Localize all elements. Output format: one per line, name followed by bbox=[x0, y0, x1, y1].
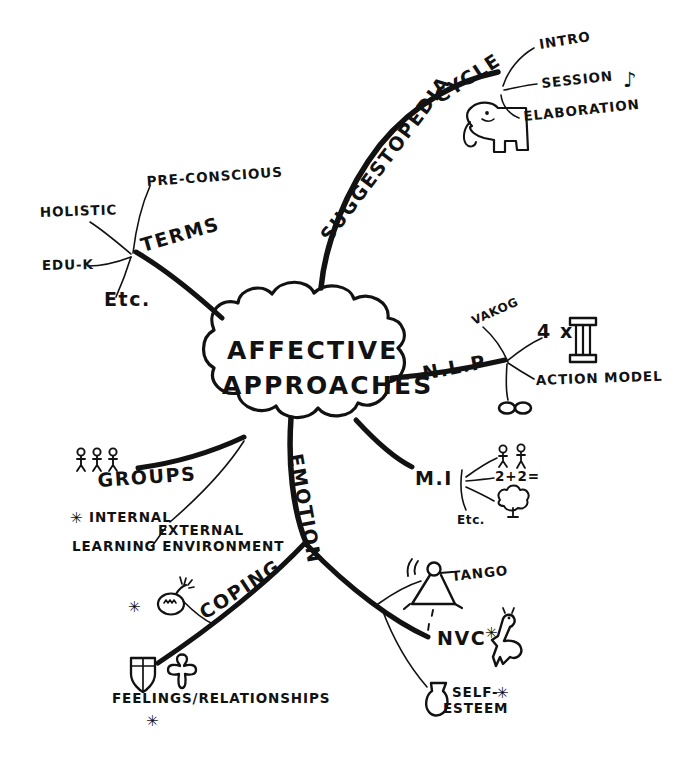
subbranch-holistic bbox=[90, 222, 131, 254]
branch-label-mi: M.I bbox=[415, 467, 453, 489]
giraffe-icon bbox=[492, 608, 521, 666]
leaf-label-holistic: HOLISTIC bbox=[40, 201, 118, 220]
music-note-icon: ♪ bbox=[623, 68, 637, 92]
subbranch-intro bbox=[503, 48, 534, 86]
feelings-asterisk-icon: ✳ bbox=[146, 712, 159, 730]
branch-label-suggestopedia: SUGGESTOPEDIA bbox=[316, 71, 455, 245]
internal-asterisk-icon: ✳ bbox=[70, 509, 83, 527]
central-node[interactable]: AFFECTIVE APPROACHES bbox=[204, 282, 434, 417]
leaf-label-nvc: NVC bbox=[437, 627, 486, 649]
three-people-icon bbox=[77, 448, 117, 471]
column-icon bbox=[570, 318, 596, 362]
self-esteem-asterisk-icon: ✳ bbox=[496, 684, 509, 702]
leaf-label-tango: TANGO bbox=[451, 562, 509, 584]
two-people-icon bbox=[499, 444, 525, 468]
center-title-line1: AFFECTIVE bbox=[227, 336, 399, 365]
leaf-label-learning-environment: LEARNING ENVIRONMENT bbox=[72, 538, 284, 554]
branch-mi[interactable]: M.I 2+2= Etc. bbox=[356, 420, 540, 527]
branch-label-emotion: EMOTION bbox=[285, 452, 326, 565]
branch-label-nlp: N.L.P bbox=[421, 350, 488, 384]
leaf-label-edu-k: EDU-K bbox=[42, 256, 94, 273]
branch-suggestopedia[interactable]: SUGGESTOPEDIA CYCLE INTRO SESSION ELABOR… bbox=[316, 28, 641, 288]
subbranch-vakog bbox=[483, 327, 508, 362]
eyes-icon bbox=[499, 403, 531, 414]
leaf-label-vakog: VAKOG bbox=[470, 295, 521, 328]
leaf-label-session: SESSION bbox=[541, 68, 614, 91]
leaf-label-intro: INTRO bbox=[538, 28, 592, 52]
leaf-label-mi-math: 2+2= bbox=[495, 468, 540, 484]
leaf-label-action-model: ACTION MODEL bbox=[536, 368, 663, 388]
leaf-label-etc-terms: Etc. bbox=[104, 288, 151, 310]
leaf-label-external: EXTERNAL bbox=[158, 522, 244, 538]
bomb-icon bbox=[158, 577, 194, 615]
subbranch-eyes bbox=[506, 364, 508, 400]
leaf-label-feelings-relationships: FEELINGS/RELATIONSHIPS bbox=[112, 690, 330, 706]
leaf-label-self-esteem-2: ESTEEM bbox=[443, 700, 508, 716]
subbranch-session bbox=[504, 84, 537, 90]
coping-asterisk-icon: ✳ bbox=[128, 598, 141, 616]
branch-label-coping: COPING bbox=[195, 555, 284, 624]
leaf-label-four-times: 4 x bbox=[537, 320, 574, 342]
mind-map-drawing: AFFECTIVE APPROACHES SUGGESTOPEDIA CYCLE… bbox=[0, 0, 680, 770]
subbranch-mi-math bbox=[466, 478, 494, 481]
tree-icon bbox=[499, 486, 529, 518]
leaf-label-pre-conscious: PRE-CONSCIOUS bbox=[146, 164, 283, 189]
subbranch-self-esteem bbox=[382, 609, 427, 687]
leaf-label-elaboration: ELABORATION bbox=[523, 96, 641, 124]
branch-line-mi bbox=[356, 420, 412, 467]
elephant-icon bbox=[464, 103, 528, 152]
leaf-label-self-esteem-1: SELF- bbox=[452, 684, 498, 700]
subbranch-mi-group bbox=[461, 470, 466, 510]
branch-line-suggestopedia bbox=[321, 72, 498, 288]
subbranch-mi-people bbox=[466, 458, 497, 477]
branch-groups[interactable]: GROUPS INTERNAL EXTERNAL LEARNING ENVIRO… bbox=[70, 437, 284, 554]
subbranch-edu-k bbox=[88, 257, 131, 266]
subbranch-action-model bbox=[508, 363, 534, 379]
branch-label-terms: TERMS bbox=[138, 212, 222, 256]
shield-icon bbox=[131, 658, 155, 692]
mind-map-canvas: AFFECTIVE APPROACHES SUGGESTOPEDIA CYCLE… bbox=[0, 0, 680, 770]
subbranch-mi-tree bbox=[466, 487, 494, 501]
leaf-label-mi-etc: Etc. bbox=[457, 513, 485, 527]
person-icon bbox=[168, 655, 196, 689]
subbranch-elaboration bbox=[501, 95, 519, 118]
